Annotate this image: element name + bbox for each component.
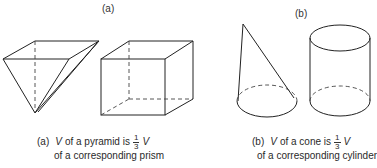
caption-a: (a) V of a pyramid is 1 3 V of a corresp… [37,134,164,162]
cone-shape [237,24,297,117]
caption-a-text: of a pyramid is [65,136,130,148]
caption-a-variable-after: V [142,136,149,148]
caption-b-tag: (b) [252,136,264,148]
caption-b: (b) V of a cone is 1 3 V of a correspond… [252,134,377,162]
caption-a-line2: of a corresponding prism [54,150,164,162]
caption-a-variable: V [55,136,62,148]
prism-shape [101,41,193,115]
caption-b-variable-after: V [344,136,351,148]
caption-a-tag: (a) [37,136,49,148]
caption-b-variable: V [270,136,277,148]
caption-a-fraction: 1 3 [133,134,139,151]
panel-a-header: (a) [102,3,114,14]
caption-b-text: of a cone is [280,136,331,148]
pyramid-shape [3,41,99,113]
panel-b-header: (b) [295,8,307,19]
caption-b-line2: of a corresponding cylinder [257,150,377,162]
cylinder-shape [310,25,370,116]
caption-b-fraction: 1 3 [334,134,340,151]
